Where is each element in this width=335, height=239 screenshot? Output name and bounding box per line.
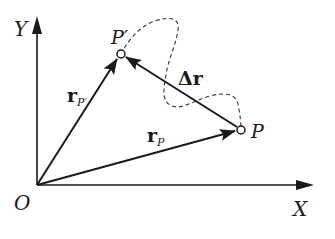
r-p-label: rP [147, 124, 165, 149]
point-p-prime [117, 50, 125, 58]
r-p-prime-label: rP′ [67, 84, 87, 109]
x-axis-label: X [291, 197, 308, 221]
point-p-label: P [250, 120, 265, 142]
origin-label: O [14, 191, 30, 215]
x-axis-arrow-icon [296, 180, 314, 190]
point-p [237, 126, 245, 134]
delta-r-label: Δr [178, 67, 204, 89]
y-axis-arrow-icon [32, 16, 42, 34]
point-p-prime-label: P′ [110, 26, 129, 48]
displacement-diagram: Y X O P′ P Δr rP′ rP [0, 0, 335, 239]
y-axis-label: Y [14, 17, 29, 41]
